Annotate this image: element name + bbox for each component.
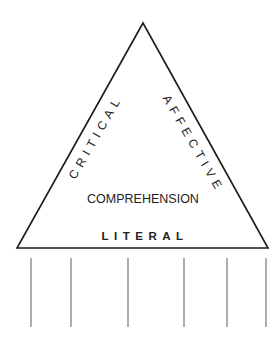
label-affective: AFFECTIVE bbox=[160, 92, 228, 195]
label-comprehension: COMPREHENSION bbox=[87, 192, 199, 206]
triangle-outline bbox=[17, 23, 268, 248]
label-literal: LITERAL bbox=[101, 230, 188, 242]
comprehension-triangle-diagram: CRITICAL AFFECTIVE COMPREHENSION LITERAL bbox=[0, 0, 280, 344]
support-lines bbox=[31, 258, 266, 327]
label-critical: CRITICAL bbox=[66, 92, 125, 181]
